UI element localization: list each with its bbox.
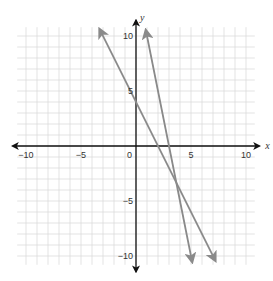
y-tick-label: 5 (128, 86, 133, 96)
y-tick-label: −5 (123, 196, 133, 206)
x-axis-label: x (264, 140, 270, 151)
x-tick-label: −10 (18, 150, 33, 160)
x-tick-label: 10 (241, 150, 251, 160)
x-tick-label: 5 (188, 150, 193, 160)
coordinate-plane-chart: xy−10−50510105−5−10 (0, 0, 273, 281)
y-tick-label: 10 (123, 31, 133, 41)
y-tick-label: −10 (118, 251, 133, 261)
x-tick-label: 0 (127, 150, 132, 160)
x-tick-label: −5 (76, 150, 86, 160)
y-axis-label: y (139, 12, 145, 23)
tick-labels: xy−10−50510105−5−10 (18, 12, 270, 261)
plotted-line-line-1 (100, 29, 216, 260)
